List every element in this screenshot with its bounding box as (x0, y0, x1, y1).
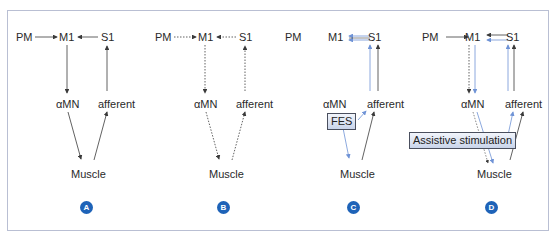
node-amn: αMN (56, 98, 79, 110)
node-m1: M1 (59, 31, 74, 43)
panel-badge-c: C (347, 201, 360, 214)
node-muscle: Muscle (71, 168, 106, 180)
panel-badge-d: D (485, 201, 498, 214)
node-afferent: afferent (505, 98, 542, 110)
panel-badge-a: A (80, 201, 93, 214)
node-afferent: afferent (98, 98, 135, 110)
node-s1: S1 (506, 31, 519, 43)
node-afferent: afferent (367, 98, 404, 110)
node-muscle: Muscle (209, 168, 244, 180)
node-muscle: Muscle (340, 168, 375, 180)
panel-badge-b: B (217, 201, 230, 214)
node-s1: S1 (368, 31, 381, 43)
node-pm: PM (16, 31, 33, 43)
node-pm: PM (422, 31, 439, 43)
node-pm: PM (285, 31, 302, 43)
node-amn: αMN (461, 98, 484, 110)
node-muscle: Muscle (477, 168, 512, 180)
node-afferent: afferent (236, 98, 273, 110)
node-amn: αMN (194, 98, 217, 110)
node-m1: M1 (198, 31, 213, 43)
node-pm: PM (155, 31, 172, 43)
node-s1: S1 (239, 31, 252, 43)
node-s1: S1 (101, 31, 114, 43)
assistive-stimulation-box: Assistive stimulation (409, 132, 516, 149)
fes-stimulation-box: FES (327, 113, 356, 130)
node-m1: M1 (465, 31, 480, 43)
node-amn: αMN (323, 98, 346, 110)
node-m1: M1 (328, 31, 343, 43)
